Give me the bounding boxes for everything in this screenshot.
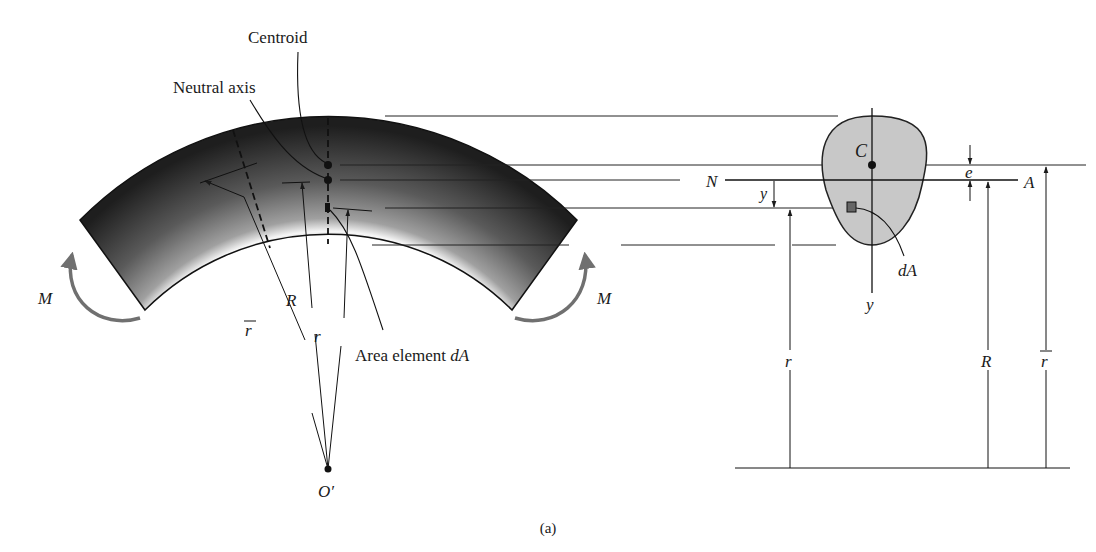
moment-label-left: M	[37, 289, 53, 308]
R-label-section: R	[980, 352, 992, 371]
cross-section	[725, 108, 1018, 293]
figure-caption: (a)	[540, 520, 557, 537]
curved-beam-diagram: Centroid Neutral axis M M R r r Area ele…	[0, 0, 1096, 552]
area-element-label: Area element dA	[355, 346, 470, 365]
center-point-O	[325, 466, 332, 473]
N-label: N	[705, 172, 719, 191]
area-element-mark	[325, 203, 330, 212]
r-bar-label-beam: r	[244, 321, 256, 340]
neutral-axis-dot	[324, 176, 332, 184]
center-label: O′	[318, 482, 334, 501]
A-label: A	[1023, 173, 1035, 192]
r-bar-label-section: r	[1040, 351, 1052, 371]
r-label-section: r	[785, 352, 792, 371]
C-label: C	[855, 141, 868, 161]
svg-text:r: r	[245, 321, 252, 340]
neutral-axis-label: Neutral axis	[173, 78, 256, 97]
y-offset-label: y	[758, 185, 768, 203]
dA-label: dA	[898, 261, 918, 280]
centroid-label: Centroid	[248, 28, 308, 47]
svg-text:r: r	[1041, 352, 1048, 371]
moment-label-right: M	[596, 289, 612, 308]
y-axis-label: y	[864, 295, 874, 314]
R-label-beam: R	[285, 291, 297, 310]
r-label-beam: r	[314, 327, 321, 346]
dA-square	[847, 202, 856, 212]
e-label: e	[965, 163, 973, 182]
centroid-C-dot	[868, 161, 876, 169]
